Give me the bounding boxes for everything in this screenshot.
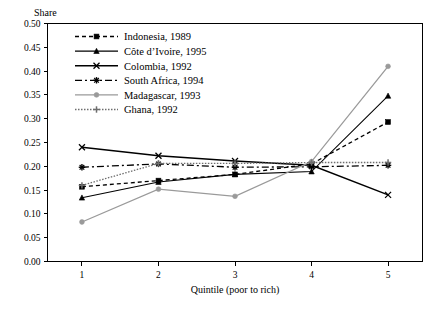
data-point-star [79, 164, 85, 170]
legend-label: Côte d’Ivoire, 1995 [124, 46, 207, 57]
x-tick-label: 3 [233, 270, 238, 280]
x-axis-title: Quintile (poor to rich) [191, 284, 280, 296]
y-tick-label: 0.05 [24, 233, 41, 243]
y-tick-label: 0.20 [24, 162, 41, 172]
x-tick-label: 4 [309, 270, 314, 280]
data-point-circle [386, 64, 391, 69]
y-tick-label: 0.35 [24, 90, 41, 100]
plot-area-border [48, 24, 423, 262]
y-tick-label: 0.00 [24, 257, 41, 267]
data-point-circle [80, 220, 85, 225]
x-tick-label: 1 [80, 270, 85, 280]
plot-frame [48, 24, 423, 262]
y-axis-title: Share [34, 7, 57, 18]
data-point-star [93, 77, 99, 83]
data-point-circle [94, 93, 99, 98]
y-tick-label: 0.45 [24, 43, 41, 53]
x-axis: 12345 [80, 262, 391, 280]
data-point-circle [156, 187, 161, 192]
x-tick-label: 2 [156, 270, 161, 280]
data-point-square [386, 120, 391, 125]
legend-label: Indonesia, 1989 [124, 31, 191, 42]
y-tick-label: 0.50 [24, 19, 41, 29]
y-axis: 0.000.050.100.150.200.250.300.350.400.45… [24, 19, 48, 267]
y-tick-label: 0.25 [24, 138, 41, 148]
legend-label: Colombia, 1992 [124, 61, 192, 72]
x-tick-label: 5 [386, 270, 391, 280]
line-chart: 0.000.050.100.150.200.250.300.350.400.45… [0, 0, 442, 311]
y-tick-label: 0.40 [24, 67, 41, 77]
y-tick-label: 0.30 [24, 114, 41, 124]
data-point-circle [233, 194, 238, 199]
y-tick-label: 0.15 [24, 186, 41, 196]
legend-label: Ghana, 1992 [124, 104, 178, 115]
y-tick-label: 0.10 [24, 209, 41, 219]
chart-container: 0.000.050.100.150.200.250.300.350.400.45… [0, 0, 442, 311]
legend-label: South Africa, 1994 [124, 75, 204, 86]
data-point-square [94, 34, 99, 39]
legend-label: Madagascar, 1993 [124, 90, 201, 101]
